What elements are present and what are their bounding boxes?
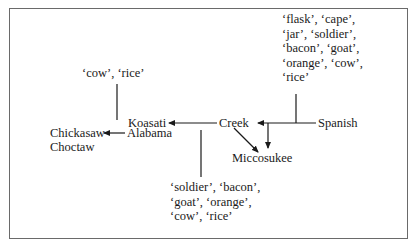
node-alabama: Alabama bbox=[127, 126, 172, 140]
node-miccosukee: Miccosukee bbox=[232, 151, 292, 165]
alabama-word-list: ‘cow’, ‘rice’ bbox=[82, 66, 144, 81]
spanish-word-list: ‘flask’, ‘cape’, ‘jar’, ‘soldier’, ‘baco… bbox=[282, 12, 363, 85]
node-choctaw: Choctaw bbox=[50, 140, 94, 154]
node-chickasaw: Chickasaw bbox=[50, 126, 105, 140]
creek-to-miccosukee-arrow bbox=[234, 128, 258, 152]
node-creek: Creek bbox=[219, 116, 249, 130]
creek-word-list: ‘soldier’, ‘bacon’, ‘goat’, ‘orange’, ‘c… bbox=[170, 180, 260, 224]
node-spanish: Spanish bbox=[318, 116, 358, 130]
